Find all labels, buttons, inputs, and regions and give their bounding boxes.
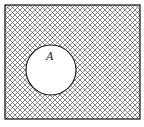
set-a-label: A [45,50,54,63]
venn-diagram: A [0,0,144,127]
